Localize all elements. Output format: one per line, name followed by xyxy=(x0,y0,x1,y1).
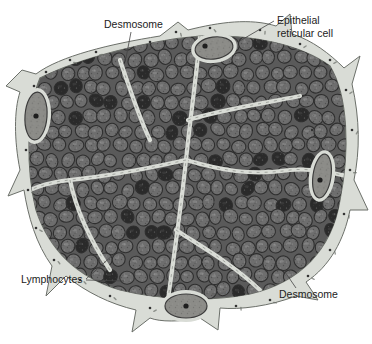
lymphocyte xyxy=(270,209,285,224)
lymphocyte xyxy=(118,239,134,253)
granule xyxy=(235,305,238,308)
lymphocyte xyxy=(38,49,53,66)
epithelial-reticular-cell-label-line2: reticular cell xyxy=(277,27,333,39)
mitochondrion xyxy=(31,192,35,194)
lymphocyte xyxy=(58,34,76,51)
granule xyxy=(25,149,28,152)
nucleolus xyxy=(183,303,188,308)
granule xyxy=(299,43,302,46)
granule xyxy=(345,89,348,92)
granule xyxy=(33,85,36,88)
granule xyxy=(175,31,178,34)
lymphocyte xyxy=(165,64,178,79)
desmosome-bottom-label: Desmosome xyxy=(279,288,338,300)
mitochondrion xyxy=(240,307,242,311)
epithelial-reticular-cell xyxy=(161,290,211,322)
lymphocyte xyxy=(216,79,231,94)
lymphocyte xyxy=(59,210,74,223)
lymphocyte xyxy=(334,252,353,271)
nucleolus xyxy=(202,43,207,48)
lymphocyte xyxy=(119,271,134,285)
granule xyxy=(45,71,48,74)
lymphocyte xyxy=(278,110,293,125)
lymphocyte xyxy=(321,137,336,151)
mitochondrion xyxy=(353,172,357,174)
lymphocyte xyxy=(152,239,165,254)
lymphocyte xyxy=(31,38,44,51)
lymphocyte xyxy=(22,256,34,270)
lymphocyte xyxy=(262,50,275,65)
lymphocyte xyxy=(75,38,89,51)
mitochondrion xyxy=(311,277,315,280)
lymphocyte xyxy=(20,283,39,301)
granule xyxy=(109,295,112,298)
lymphocyte xyxy=(279,138,293,153)
granule xyxy=(351,129,354,132)
granule xyxy=(269,299,272,302)
nucleolus xyxy=(33,113,38,118)
lymphocyte xyxy=(325,79,339,92)
lymphocyte xyxy=(201,78,216,92)
lymphocyte xyxy=(156,226,171,239)
granule xyxy=(329,249,332,252)
lymphocyte xyxy=(21,52,36,64)
lymphocyte xyxy=(262,256,275,272)
mitochondrion xyxy=(264,31,266,35)
granule xyxy=(53,259,56,262)
granule xyxy=(209,27,212,30)
granule xyxy=(307,275,310,278)
granule xyxy=(311,129,314,132)
granule xyxy=(35,227,38,230)
lymphocytes-label: Lymphocytes xyxy=(21,273,82,285)
lymphocyte xyxy=(269,241,282,253)
granule xyxy=(149,307,152,310)
lymphocyte xyxy=(41,36,60,55)
granule xyxy=(343,213,346,216)
granule xyxy=(27,189,30,192)
granule xyxy=(349,169,352,172)
granule xyxy=(149,41,152,44)
lymphocyte xyxy=(306,137,320,153)
epithelial-reticular-cell-label-line1: Epithelial xyxy=(277,14,320,26)
lymphocyte-layer xyxy=(20,33,356,302)
nucleolus xyxy=(317,177,322,182)
granule xyxy=(69,59,72,62)
granule xyxy=(95,51,98,54)
granule xyxy=(329,59,332,62)
mitochondrion xyxy=(348,215,350,219)
lymphocyte xyxy=(75,94,88,108)
lymphocyte xyxy=(211,180,224,195)
lymphocyte xyxy=(137,240,151,256)
lymphocyte xyxy=(326,266,346,285)
mitochondrion xyxy=(50,73,52,77)
lymphocyte xyxy=(61,239,75,253)
thymus-illustration: Desmosome Epithelial reticular cell Lymp… xyxy=(0,0,372,344)
desmosome-top-label: Desmosome xyxy=(104,18,163,30)
